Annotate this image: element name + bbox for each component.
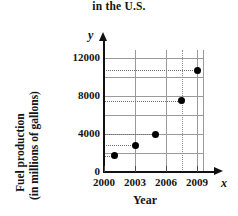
plot-area <box>104 50 204 172</box>
gridline-y-8000 <box>104 96 204 97</box>
y-axis-arrowhead-icon <box>99 32 107 41</box>
x-tick-mark-2006 <box>166 166 167 172</box>
plot-right-border <box>203 50 204 172</box>
gridline-x-2003 <box>135 50 136 172</box>
gridline-y-10000 <box>104 77 204 78</box>
x-axis-arrowhead-icon <box>214 167 223 175</box>
leader-line-3 <box>104 101 182 102</box>
y-tick-label-12000: 12000 <box>73 51 101 63</box>
data-point <box>194 67 201 74</box>
x-tick-label-2000: 2000 <box>87 176 121 188</box>
gridline-x-2006 <box>166 50 167 172</box>
x-tick-label-2006: 2006 <box>149 176 183 188</box>
x-tick-label-2009: 2009 <box>180 176 214 188</box>
x-axis-line <box>103 171 215 173</box>
x-axis-title: Year <box>85 193 205 208</box>
gridline-y-6000 <box>104 115 204 116</box>
x-tick-mark-2003 <box>135 166 136 172</box>
leader-line-4 <box>104 70 197 71</box>
x-axis-variable-label: x <box>221 176 227 191</box>
leader-line-1 <box>104 145 135 146</box>
gridline-y-2000 <box>104 153 204 154</box>
gridline-x-minor <box>182 50 183 172</box>
gridline-y-12000 <box>104 58 204 59</box>
data-point <box>152 131 159 138</box>
data-point <box>132 142 139 149</box>
x-tick-mark-2000 <box>104 166 105 172</box>
chart-title: in the U.S. <box>0 0 238 12</box>
y-axis-title-line-1: Fuel production <box>14 113 26 192</box>
data-point <box>178 97 185 104</box>
leader-line-2 <box>104 134 156 135</box>
y-tick-label-8000: 8000 <box>78 89 100 101</box>
data-point <box>111 152 118 159</box>
y-axis-title: Fuel production (in millions of gallons) <box>0 14 40 204</box>
x-tick-label-2003: 2003 <box>118 176 152 188</box>
y-axis-line <box>103 40 105 173</box>
x-tick-mark-2009 <box>197 166 198 172</box>
y-axis-title-line-2: (in millions of gallons) <box>28 91 40 200</box>
y-tick-label-4000: 4000 <box>78 127 100 139</box>
